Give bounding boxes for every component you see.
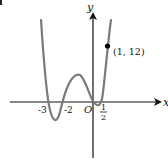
tick-label-half-denominator: 2 <box>101 113 106 122</box>
tick-label-half-numerator: 1 <box>101 103 106 112</box>
function-graph: y x O -3 -2 1 2 (1, 12) <box>0 0 168 159</box>
tick-label-neg2: -2 <box>64 105 73 115</box>
tick-label-neg3: -3 <box>38 105 47 115</box>
point-marker <box>105 43 110 48</box>
origin-label: O <box>84 104 92 115</box>
x-axis-label: x <box>163 96 168 109</box>
point-label: (1, 12) <box>113 46 145 57</box>
y-axis-label: y <box>86 1 94 14</box>
